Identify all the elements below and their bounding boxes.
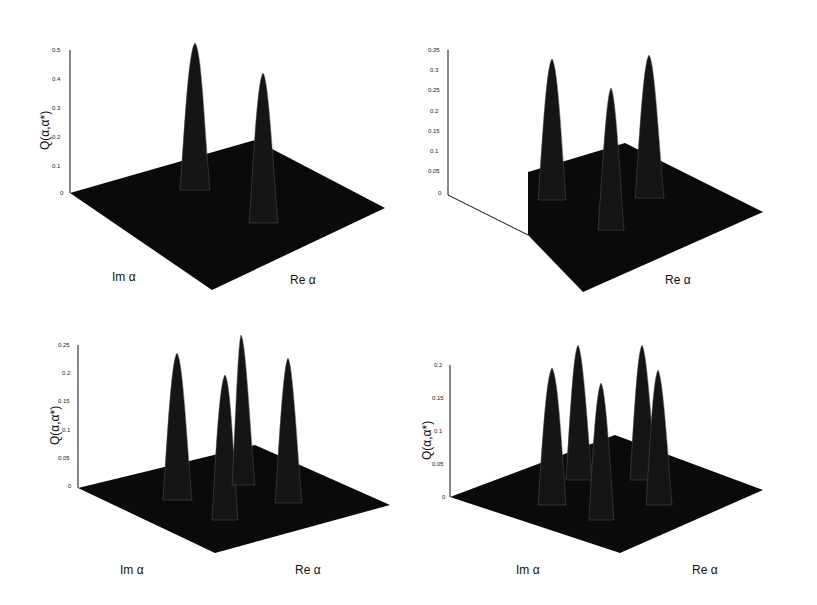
- xlabel-d: Re α: [692, 563, 718, 577]
- panel-c: 0.25 0.2 0.15 0.1 0.05 0 Q(α,α*) Im α Re…: [0, 320, 400, 605]
- ylabel-c: Im α: [120, 563, 144, 577]
- surface-plot-a: [0, 30, 400, 290]
- xlabel-b: Re α: [665, 273, 691, 287]
- ylabel-d: Im α: [516, 563, 540, 577]
- panel-a: 0.5 0.4 0.3 0.2 0.1 0 Q(α,α*) Im α Re α: [0, 30, 400, 320]
- zlabel-a: Q(α,α*): [38, 111, 52, 150]
- zlabel-d: Q(α,α*): [420, 421, 434, 460]
- surface-plot-c: [0, 320, 400, 605]
- panel-d: 0.2 0.15 0.1 0.05 0 Q(α,α*) Im α Re α: [420, 320, 817, 605]
- zlabel-c: Q(α,α*): [48, 406, 62, 445]
- xlabel-c: Re α: [295, 563, 321, 577]
- surface-plot-b: [420, 30, 817, 290]
- surface-plot-d: [420, 320, 817, 605]
- xlabel-a: Re α: [290, 273, 316, 287]
- panel-b: 0.35 0.3 0.25 0.2 0.15 0.1 0.05 0 Re α: [420, 30, 817, 320]
- ylabel-a: Im α: [112, 270, 136, 284]
